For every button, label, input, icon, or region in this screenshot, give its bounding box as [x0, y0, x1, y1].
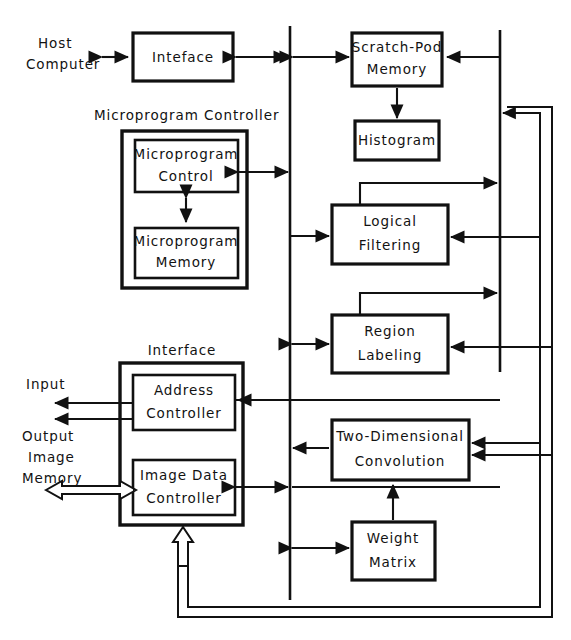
feedback-loop-outer-path	[507, 107, 552, 347]
block-logical-filtering-label-line2: Filtering	[359, 237, 421, 253]
image-memory-bidirectional-bus-arrow	[46, 481, 136, 499]
block-region-labeling-label-line1: Region	[364, 323, 416, 339]
interface-group-label: Interface	[148, 342, 217, 358]
output-label: Output	[22, 428, 74, 444]
block-address-controller-label-line2: Controller	[146, 405, 221, 421]
block-two-dimensional-convolution-label-line2: Convolution	[355, 453, 446, 469]
block-image-data-controller-label-line1: Image Data	[140, 467, 228, 483]
block-microprogram-memory-label-line2: Memory	[156, 254, 216, 270]
microprogram-controller-group-label: Microprogram Controller	[94, 107, 279, 123]
block-interface-top-label: Inteface	[152, 49, 214, 65]
block-histogram-label: Histogram	[358, 132, 436, 148]
block-weight-matrix-label-line2: Matrix	[369, 554, 417, 570]
region-labeling-to-rightbus-wire	[360, 293, 497, 315]
input-label: Input	[26, 376, 65, 392]
feedback-into-interface-arrow	[173, 527, 193, 566]
block-region-labeling-label-line2: Labeling	[358, 347, 423, 363]
block-microprogram-memory-label-line1: Microprogram	[134, 233, 239, 249]
image-memory-label-line2: Memory	[22, 470, 82, 486]
host-computer-label-line1: Host	[38, 35, 72, 51]
block-scratch-pad-memory-label-line1: Scratch-Pod	[352, 39, 442, 55]
image-memory-label-line1: Image	[28, 449, 75, 465]
block-address-controller-label-line1: Address	[154, 382, 214, 398]
feedback-loop-inner-path	[505, 113, 540, 237]
block-logical-filtering-label-line1: Logical	[363, 213, 417, 229]
block-two-dimensional-convolution-label-line1: Two-Dimensional	[335, 428, 464, 444]
block-microprogram-control-label-line1: Microprogram	[134, 146, 239, 162]
block-weight-matrix-label-line1: Weight	[367, 530, 419, 546]
block-microprogram-control-label-line2: Control	[158, 168, 213, 184]
host-computer-label-line2: Computer	[26, 56, 100, 72]
block-scratch-pad-memory-label-line2: Memory	[367, 61, 427, 77]
diagram-canvas: Host Computer Inteface Scratch-Pod Memor…	[0, 0, 571, 640]
logical-filtering-to-rightbus-wire	[360, 183, 497, 205]
block-image-data-controller-label-line2: Controller	[146, 490, 221, 506]
block-diagram: Host Computer Inteface Scratch-Pod Memor…	[0, 0, 571, 640]
